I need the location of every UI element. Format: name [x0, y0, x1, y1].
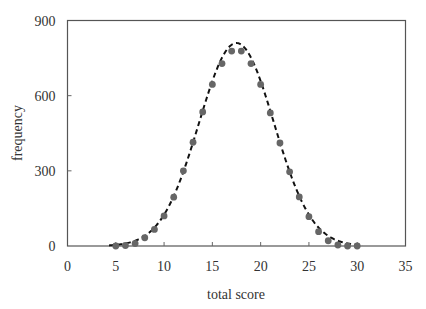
data-point: [315, 228, 322, 235]
y-axis: 0300600900: [35, 14, 72, 255]
x-tick-label: 0: [64, 259, 71, 274]
data-point: [180, 167, 187, 174]
data-point: [286, 168, 293, 175]
data-point: [122, 242, 129, 249]
data-point: [335, 242, 342, 249]
x-tick-label: 5: [112, 259, 119, 274]
x-tick-label: 35: [399, 259, 413, 274]
y-tick-label: 900: [35, 14, 56, 29]
data-point: [190, 139, 197, 146]
data-point: [199, 109, 206, 116]
x-tick-label: 25: [302, 259, 316, 274]
y-axis-title: frequency: [10, 105, 25, 161]
data-point: [141, 234, 148, 241]
data-point: [151, 226, 158, 233]
data-point: [170, 194, 177, 201]
chart: 0300600900 05101520253035 total score fr…: [0, 0, 426, 309]
x-tick-label: 20: [254, 259, 268, 274]
y-tick-label: 300: [35, 164, 56, 179]
data-point: [238, 48, 245, 55]
data-point: [228, 48, 235, 55]
plot-area: [68, 21, 406, 247]
x-tick-label: 30: [350, 259, 364, 274]
data-point: [354, 243, 361, 250]
data-point: [325, 237, 332, 244]
y-tick-label: 0: [49, 239, 56, 254]
data-point: [306, 213, 313, 220]
data-point: [132, 240, 139, 247]
data-point: [296, 193, 303, 200]
y-tick-label: 600: [35, 89, 56, 104]
data-point: [209, 81, 216, 88]
x-tick-label: 10: [157, 259, 171, 274]
data-point: [277, 140, 284, 147]
x-tick-label: 15: [205, 259, 219, 274]
data-point: [344, 243, 351, 250]
fit-curve: [109, 43, 363, 245]
data-point: [112, 243, 119, 250]
data-point: [219, 60, 226, 67]
data-point: [267, 110, 274, 117]
data-point: [161, 213, 168, 220]
data-point: [257, 81, 264, 88]
data-point: [248, 60, 255, 67]
data-points: [112, 48, 360, 250]
x-axis-title: total score: [207, 287, 265, 302]
